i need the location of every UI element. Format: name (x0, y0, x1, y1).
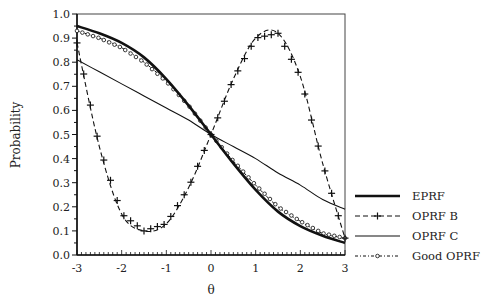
y-tick-label: 1.0 (53, 8, 71, 21)
x-axis-label: θ (207, 283, 214, 297)
series-oprf-b (74, 30, 349, 242)
y-tick-label: 0.8 (53, 56, 71, 69)
legend-item: Good OPRF (355, 249, 480, 263)
legend: EPRFOPRF BOPRF CGood OPRF (355, 189, 480, 263)
x-tick-label: -1 (161, 262, 172, 275)
y-axis-label: Probability (9, 101, 23, 168)
legend-item: OPRF B (355, 209, 458, 223)
y-tick-label: 0.2 (53, 201, 71, 214)
x-tick-label: -3 (72, 262, 83, 275)
x-tick-label: 0 (208, 262, 215, 275)
probability-chart: 0.00.10.20.30.40.50.60.70.80.91.0 -3-2-1… (0, 0, 489, 304)
x-tick-label: 3 (342, 262, 349, 275)
y-axis: 0.00.10.20.30.40.50.60.70.80.91.0 (53, 8, 78, 262)
y-tick-label: 0.0 (53, 249, 71, 262)
y-tick-label: 0.7 (53, 80, 71, 93)
y-tick-label: 0.6 (53, 104, 71, 117)
y-tick-label: 0.1 (53, 225, 71, 238)
y-tick-label: 0.4 (53, 153, 71, 166)
legend-item: OPRF C (355, 229, 458, 243)
legend-label: Good OPRF (412, 249, 480, 263)
x-tick-label: 1 (252, 262, 259, 275)
legend-label: OPRF B (412, 209, 458, 223)
x-tick-label: -2 (116, 262, 127, 275)
y-tick-label: 0.9 (53, 32, 71, 45)
legend-label: EPRF (412, 189, 445, 203)
x-tick-label: 2 (297, 262, 304, 275)
y-tick-label: 0.3 (53, 177, 71, 190)
legend-item: EPRF (355, 189, 445, 203)
y-tick-label: 0.5 (53, 129, 71, 142)
legend-label: OPRF C (412, 229, 458, 243)
series-layer (74, 26, 349, 243)
x-axis: -3-2-10123 (72, 250, 349, 275)
